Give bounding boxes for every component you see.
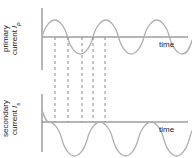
secondary-subscript: s	[15, 103, 21, 106]
waveform-plot	[0, 0, 192, 158]
secondary-label-line1: secondary	[1, 101, 10, 138]
secondary-current-axis-label: secondary current Is	[2, 84, 21, 154]
secondary-symbol: I	[10, 106, 19, 108]
secondary-time-axis-label: time	[159, 125, 174, 134]
primary-label-line1: primary	[1, 26, 10, 53]
transformer-current-figure: primary current Ip secondary current Is …	[0, 0, 192, 158]
primary-label-line2: current	[10, 28, 19, 55]
primary-current-axis-label: primary current Ip	[2, 6, 21, 72]
phase-guide-lines	[55, 37, 105, 122]
secondary-label-line2: current	[10, 108, 19, 135]
primary-subscript: p	[15, 23, 21, 26]
primary-panel	[42, 8, 192, 70]
primary-time-axis-label: time	[159, 40, 174, 49]
primary-symbol: I	[10, 26, 19, 28]
